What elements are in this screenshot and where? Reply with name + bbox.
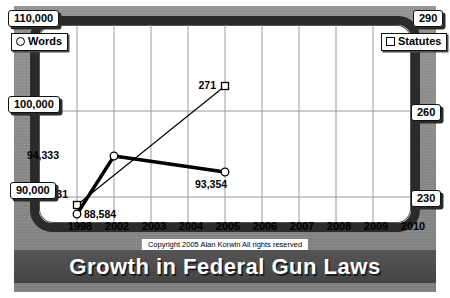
x-tick-1998: 1998 — [68, 220, 92, 233]
plot-area: 88,584 94,333 93,354 231 271 — [40, 25, 410, 223]
y-axis-left-tick-90000: 90,000 — [10, 182, 56, 199]
x-tick-2009: 2009 — [364, 220, 388, 233]
x-tick-2008: 2008 — [327, 220, 351, 233]
x-tick-2003: 2003 — [142, 220, 166, 233]
y-axis-right-tick-230: 230 — [411, 190, 441, 207]
data-label-words-2005: 93,354 — [195, 179, 227, 190]
x-tick-2010: 2010 — [401, 220, 425, 233]
plot-svg — [40, 25, 410, 223]
legend-label-words: Words — [28, 35, 62, 48]
x-tick-2006: 2006 — [253, 220, 277, 233]
title-band: Growth in Federal Gun Laws — [14, 250, 436, 283]
grid-vertical — [77, 25, 373, 223]
words-point-2002 — [110, 152, 118, 160]
x-tick-2007: 2007 — [290, 220, 314, 233]
words-point-2005 — [221, 168, 229, 176]
words-point-1998 — [73, 210, 81, 218]
legend-label-statutes: Statutes — [398, 35, 441, 48]
legend-item-statutes[interactable]: Statutes — [381, 33, 447, 51]
x-tick-2004: 2004 — [179, 220, 203, 233]
square-marker-icon — [386, 37, 395, 46]
chart-screenshot: 88,584 94,333 93,354 231 271 110,000 100… — [0, 0, 450, 298]
y-axis-right-tick-290: 290 — [413, 10, 443, 27]
legend-item-words[interactable]: Words — [11, 33, 68, 51]
y-axis-left-tick-100000: 100,000 — [8, 96, 60, 113]
statutes-point-2005 — [222, 83, 229, 90]
data-label-words-2002: 94,333 — [27, 150, 59, 161]
x-tick-2005: 2005 — [216, 220, 240, 233]
chart-title: Growth in Federal Gun Laws — [69, 254, 380, 280]
data-label-words-1998: 88,584 — [84, 209, 116, 220]
y-axis-left-tick-110000: 110,000 — [8, 10, 59, 27]
y-axis-right-tick-260: 260 — [411, 104, 441, 121]
circle-marker-icon — [16, 37, 25, 46]
x-axis-labels: 1998 2002 2003 2004 2005 2006 2007 2008 … — [30, 220, 420, 238]
x-tick-2002: 2002 — [105, 220, 129, 233]
data-label-statutes-2005: 271 — [198, 80, 216, 91]
